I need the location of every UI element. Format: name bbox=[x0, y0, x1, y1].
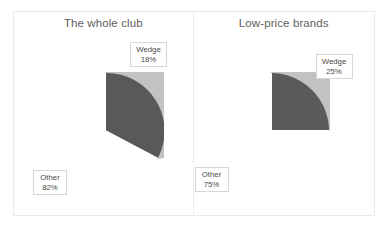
data-label-other-right: Other 75% bbox=[195, 167, 229, 192]
chart-panel-the-whole-club: The whole club Wedge 18% Other 82% bbox=[14, 12, 194, 215]
data-label-other-right-name: Other bbox=[199, 170, 225, 180]
pie-chart-figure: The whole club Wedge 18% Other 82% bbox=[13, 11, 375, 216]
data-label-wedge-right-name: Wedge bbox=[320, 57, 349, 67]
pie-chart-right bbox=[212, 72, 330, 190]
pie-area-left: Wedge 18% Other 82% bbox=[14, 12, 193, 215]
data-label-wedge-right: Wedge 25% bbox=[316, 54, 353, 79]
data-label-wedge-left-name: Wedge bbox=[134, 45, 163, 55]
data-label-other-left: Other 82% bbox=[33, 170, 67, 195]
data-label-other-left-name: Other bbox=[37, 173, 63, 183]
data-label-other-left-value: 82% bbox=[37, 183, 63, 193]
data-label-wedge-left-value: 18% bbox=[134, 55, 163, 65]
chart-panel-low-price-brands: Low-price brands Wedge 25% Other 75% bbox=[194, 12, 375, 215]
data-label-other-right-value: 75% bbox=[199, 180, 225, 190]
data-label-wedge-right-value: 25% bbox=[320, 67, 349, 77]
data-label-wedge-left: Wedge 18% bbox=[130, 42, 167, 67]
pie-area-right: Wedge 25% Other 75% bbox=[194, 12, 375, 215]
